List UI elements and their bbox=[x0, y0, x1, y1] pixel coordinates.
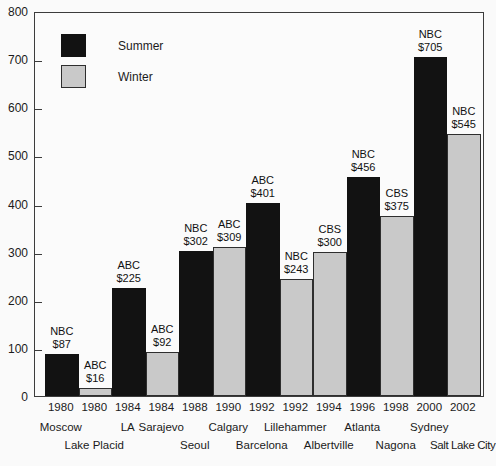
legend-item-summer: Summer bbox=[61, 34, 163, 57]
network-label: ABC bbox=[149, 323, 176, 336]
amount-label: $300 bbox=[316, 236, 344, 249]
amount-label: $375 bbox=[383, 200, 411, 213]
bar-value-label: ABC$401 bbox=[228, 174, 298, 200]
bar-lake-placid bbox=[79, 388, 113, 396]
network-label: CBS bbox=[383, 187, 410, 200]
y-tick-mark bbox=[35, 254, 42, 255]
network-label: ABC bbox=[216, 218, 243, 231]
legend-item-winter: Winter bbox=[61, 65, 163, 88]
network-label: NBC bbox=[283, 250, 310, 263]
bar-value-label: NBC$456 bbox=[328, 148, 398, 174]
y-tick-label: 200 bbox=[0, 293, 28, 309]
x-year-label: 2002 bbox=[433, 401, 493, 414]
bar-calgary bbox=[213, 247, 247, 396]
bar-albertville bbox=[313, 252, 347, 396]
amount-label: $92 bbox=[151, 336, 173, 349]
bar-salt-lake-city bbox=[447, 134, 481, 396]
bar-sarajevo bbox=[146, 352, 180, 396]
bar-lillehammer bbox=[280, 279, 314, 396]
amount-label: $225 bbox=[115, 272, 143, 285]
bar-barcelona bbox=[246, 203, 280, 396]
network-label: NBC bbox=[417, 28, 444, 41]
amount-label: $401 bbox=[249, 187, 277, 200]
amount-label: $705 bbox=[416, 41, 444, 54]
y-tick-label: 800 bbox=[0, 4, 28, 20]
y-tick-mark bbox=[35, 109, 42, 110]
amount-label: $456 bbox=[349, 161, 377, 174]
amount-label: $87 bbox=[51, 338, 73, 351]
bar-nagona bbox=[380, 216, 414, 396]
y-tick-label: 0 bbox=[0, 389, 28, 405]
y-tick-label: 700 bbox=[0, 52, 28, 68]
y-tick-mark bbox=[35, 61, 42, 62]
bar-value-label: NBC$545 bbox=[429, 105, 496, 131]
network-label: CBS bbox=[316, 223, 343, 236]
legend: Summer Winter bbox=[61, 34, 163, 96]
network-label: ABC bbox=[82, 359, 109, 372]
y-tick-label: 300 bbox=[0, 245, 28, 261]
y-tick-label: 400 bbox=[0, 197, 28, 213]
network-label: ABC bbox=[249, 174, 276, 187]
bar-value-label: NBC$87 bbox=[27, 325, 97, 351]
bar-seoul bbox=[179, 251, 213, 396]
x-city-label: Salt Lake City bbox=[415, 439, 496, 452]
legend-winter-label: Winter bbox=[118, 70, 153, 84]
y-tick-mark bbox=[35, 302, 42, 303]
x-city-label: Sydney bbox=[381, 421, 477, 434]
bar-value-label: ABC$225 bbox=[94, 259, 164, 285]
network-label: NBC bbox=[450, 105, 477, 118]
x-city-label: Lake Placid bbox=[46, 439, 142, 452]
y-tick-label: 100 bbox=[0, 341, 28, 357]
amount-label: $243 bbox=[282, 263, 310, 276]
summer-swatch-icon bbox=[61, 34, 86, 57]
y-tick-mark bbox=[35, 206, 42, 207]
amount-label: $309 bbox=[215, 231, 243, 244]
amount-label: $545 bbox=[450, 118, 478, 131]
network-label: ABC bbox=[115, 259, 142, 272]
network-label: NBC bbox=[350, 148, 377, 161]
winter-swatch-icon bbox=[61, 65, 86, 88]
bar-value-label: NBC$705 bbox=[395, 28, 465, 54]
y-tick-label: 600 bbox=[0, 100, 28, 116]
plot-area: NBC$87ABC$16ABC$225ABC$92NBC$302ABC$309A… bbox=[34, 12, 484, 397]
olympics-broadcast-fees-bar-chart: 0100200300400500600700800 NBC$87ABC$16AB… bbox=[0, 0, 496, 466]
y-tick-label: 500 bbox=[0, 148, 28, 164]
amount-label: $16 bbox=[84, 372, 106, 385]
y-tick-mark bbox=[35, 157, 42, 158]
legend-summer-label: Summer bbox=[118, 39, 163, 53]
network-label: NBC bbox=[48, 325, 75, 338]
